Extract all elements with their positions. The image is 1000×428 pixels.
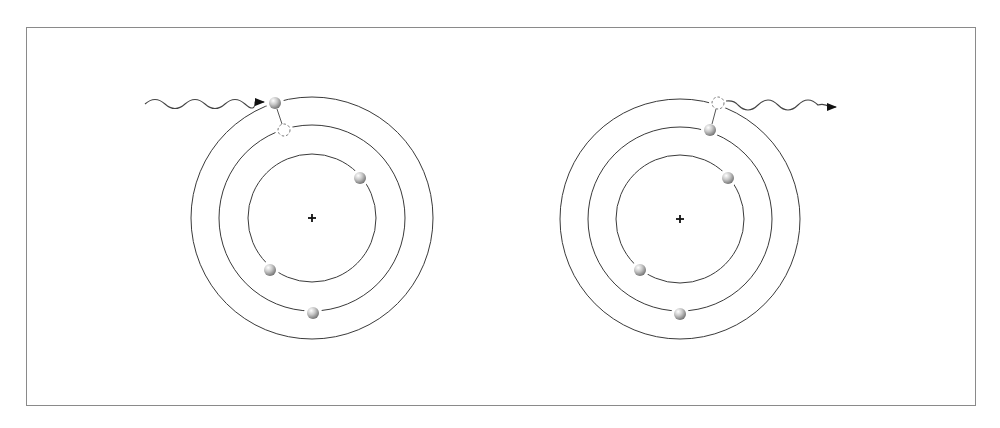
transition-line — [712, 109, 716, 124]
nucleus-plus-icon — [308, 214, 316, 222]
electron — [722, 172, 734, 184]
electron — [674, 308, 686, 320]
electron-vacancy — [712, 97, 724, 109]
electron-relaxed — [704, 124, 716, 136]
transition-line — [277, 109, 282, 124]
atom-absorption — [145, 94, 433, 339]
electron-vacancy — [278, 124, 290, 136]
bohr-atom-diagram — [0, 0, 1000, 428]
incoming-photon-wave-icon — [145, 100, 264, 109]
nucleus-plus-icon — [676, 215, 684, 223]
atom-emission — [560, 94, 836, 339]
electron — [354, 172, 366, 184]
electron — [264, 264, 276, 276]
electron-excited — [269, 97, 281, 109]
electron — [634, 264, 646, 276]
electron — [307, 307, 319, 319]
outgoing-photon-wave-icon — [726, 100, 836, 110]
